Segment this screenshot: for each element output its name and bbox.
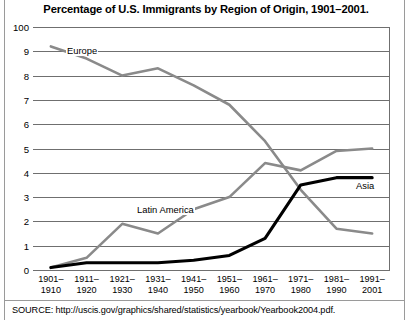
page-title: Percentage of U.S. Immigrants by Region … (10, 3, 402, 15)
series-line-asia (51, 178, 372, 268)
x-axis: 1901–19101911–19201921–19301931–19401941… (33, 274, 390, 298)
y-axis-tick-label: 6 (24, 119, 29, 130)
y-axis-tick-label: 1 (24, 240, 29, 251)
y-axis: 1009876543210 (8, 27, 29, 270)
x-axis-tick-label: 1961–1970 (252, 274, 277, 295)
figure-right-rule (404, 0, 405, 320)
x-axis-tick-label: 1941–1950 (181, 274, 206, 295)
y-axis-tick-label: 5 (24, 143, 29, 154)
x-axis-tick-label: 1921–1930 (110, 274, 135, 295)
y-axis-tick-label: 2 (24, 216, 29, 227)
x-axis-tick-label: 1901–1910 (38, 274, 63, 295)
series-line-latin-america (51, 149, 372, 268)
x-axis-tick-label: 1991–2001 (359, 274, 384, 295)
figure-left-rule (4, 0, 5, 320)
x-axis-tick-label: 1951–1960 (217, 274, 242, 295)
source-footer: SOURCE: http://uscis.gov/graphics/shared… (4, 300, 405, 320)
y-axis-tick-label: 7 (24, 94, 29, 105)
series-line-europe (51, 46, 372, 233)
series-label-asia: Asia (355, 180, 375, 191)
x-axis-tick-label: 1911–1920 (74, 274, 99, 295)
plot-area: EuropeLatin AmericaAsia (33, 27, 390, 270)
series-label-latin-america: Latin America (136, 204, 195, 215)
gridline (33, 270, 390, 271)
series-label-europe: Europe (66, 45, 98, 56)
x-axis-tick-label: 1971–1980 (288, 274, 313, 295)
y-axis-tick-label: 0 (24, 265, 29, 276)
x-axis-tick-label: 1981–1990 (324, 274, 349, 295)
x-axis-tick-label: 1931–1940 (145, 274, 170, 295)
figure-root: Percentage of U.S. Immigrants by Region … (0, 0, 409, 320)
y-axis-tick-label: 3 (24, 192, 29, 203)
source-text: SOURCE: http://uscis.gov/graphics/shared… (12, 305, 335, 315)
y-axis-tick-label: 4 (24, 167, 29, 178)
y-axis-tick-label: 9 (24, 46, 29, 57)
series-lines (33, 27, 390, 270)
y-axis-tick-label: 100 (13, 22, 29, 33)
y-axis-tick-label: 8 (24, 70, 29, 81)
